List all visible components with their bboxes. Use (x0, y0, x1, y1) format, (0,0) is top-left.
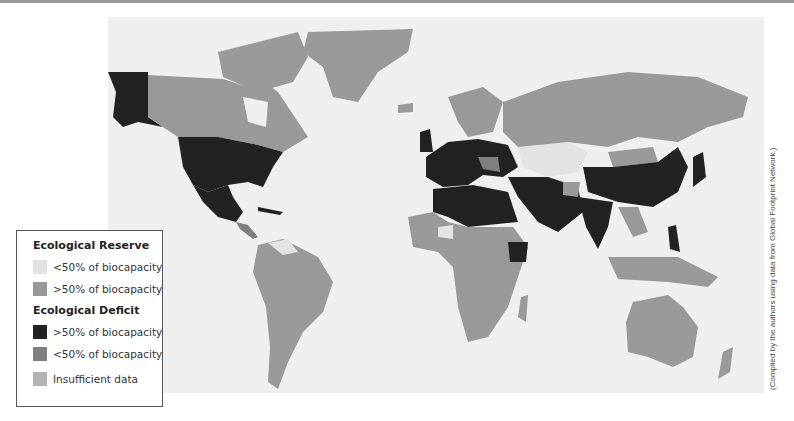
legend-deficit-title: Ecological Deficit (33, 304, 162, 317)
region-australia (626, 295, 698, 367)
legend-label: <50% of biocapacity (53, 348, 162, 360)
region-central-asia (518, 142, 588, 177)
region-madagascar (518, 295, 528, 322)
region-japan (693, 152, 706, 187)
region-afghanistan (563, 182, 580, 197)
swatch-deficit-low (33, 347, 47, 361)
region-mexico (193, 185, 243, 222)
world-map (108, 17, 764, 393)
region-iceland (398, 103, 413, 113)
legend-reserve-title: Ecological Reserve (33, 239, 162, 252)
region-india (578, 197, 613, 249)
legend-label: Insufficient data (53, 373, 138, 385)
legend-item-reserve-high: >50% of biocapacity (33, 281, 162, 296)
region-europe (426, 139, 518, 187)
legend-label: <50% of biocapacity (53, 261, 162, 273)
region-west-africa-reserve (438, 225, 453, 239)
legend-item-reserve-low: <50% of biocapacity (33, 259, 162, 274)
swatch-deficit-high (33, 325, 47, 339)
top-border (0, 0, 794, 3)
region-central-america (236, 222, 258, 239)
legend-item-insufficient: Insufficient data (33, 371, 162, 386)
region-south-america (253, 239, 333, 389)
region-indonesia (608, 257, 718, 287)
swatch-reserve-low (33, 260, 47, 274)
legend-item-deficit-low: <50% of biocapacity (33, 346, 162, 361)
region-ethiopia (508, 242, 528, 262)
source-caption: (Compiled by the authors using data from… (768, 148, 777, 390)
legend-label: >50% of biocapacity (53, 326, 162, 338)
region-caribbean (258, 207, 283, 215)
region-southeast-asia (618, 207, 648, 237)
region-uk (420, 129, 433, 152)
map-legend: Ecological Reserve <50% of biocapacity >… (16, 230, 163, 407)
region-philippines (668, 225, 680, 252)
legend-label: >50% of biocapacity (53, 283, 162, 295)
region-scandinavia (448, 87, 503, 137)
legend-item-deficit-high: >50% of biocapacity (33, 324, 162, 339)
region-russia (503, 72, 748, 152)
region-new-zealand (718, 347, 733, 379)
world-map-svg (108, 17, 764, 393)
region-africa (408, 212, 528, 342)
swatch-reserve-high (33, 282, 47, 296)
region-greenland (303, 29, 413, 102)
swatch-insufficient (33, 372, 47, 386)
